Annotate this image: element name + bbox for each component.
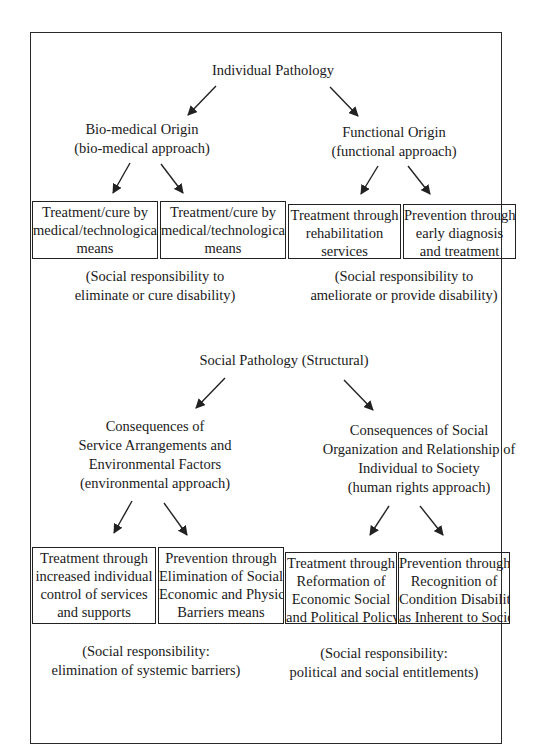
box-line: early diagnosis	[404, 224, 515, 242]
node-sublabel: (functional approach)	[331, 142, 456, 161]
note-line: (Social responsibility:	[52, 642, 241, 661]
arrow-icon	[330, 87, 358, 116]
arrow-icon	[370, 506, 389, 535]
arrow-icon	[420, 506, 443, 535]
box-line: Economic and Physical	[159, 585, 283, 603]
arrow-icon	[164, 503, 187, 535]
node-label: Environmental Factors	[78, 455, 231, 474]
box-line: Prevention through	[404, 206, 515, 224]
box-line: Reformation of	[286, 572, 396, 590]
note-line: (Social responsibility:	[290, 644, 479, 663]
box-prevention-recognition: Prevention through Recognition of Condit…	[398, 552, 510, 624]
box-line: control of services	[33, 585, 155, 603]
arrow-icon	[408, 166, 430, 194]
box-line: Condition Disability	[399, 590, 509, 608]
box-line: Prevention through	[159, 549, 283, 567]
box-line: Treatment through	[289, 206, 400, 224]
node-functional-origin: Functional Origin (functional approach)	[331, 123, 456, 161]
arrow-icon	[196, 378, 225, 408]
box-line: Elimination of Social	[159, 567, 283, 585]
arrow-icon	[161, 164, 183, 193]
box-line: medical/technological	[161, 221, 285, 239]
box-treatment-cure-2: Treatment/cure by medical/technological …	[160, 201, 286, 259]
box-treatment-individual-control: Treatment through increased individual c…	[32, 547, 156, 624]
arrow-icon	[361, 166, 378, 194]
node-service-arrangements: Consequences of Service Arrangements and…	[78, 417, 231, 493]
note-line: eliminate or cure disability)	[75, 286, 236, 305]
box-line: rehabilitation	[289, 224, 400, 242]
box-treatment-rehabilitation: Treatment through rehabilitation service…	[288, 204, 401, 259]
node-sublabel: (bio-medical approach)	[74, 139, 210, 158]
box-line: Treatment/cure by	[33, 203, 157, 221]
box-line: Treatment through	[33, 549, 155, 567]
box-line: and supports	[33, 603, 155, 621]
box-prevention-early-diagnosis: Prevention through early diagnosis and t…	[403, 204, 516, 259]
box-line: Recognition of	[399, 572, 509, 590]
node-label: Bio-medical Origin	[74, 120, 210, 139]
box-line: means	[161, 239, 285, 257]
node-label: Functional Origin	[331, 123, 456, 142]
box-line: Barriers means	[159, 603, 283, 621]
node-social-organization: Consequences of Social Organization and …	[323, 421, 516, 497]
box-line: services	[289, 242, 400, 259]
arrow-icon	[113, 163, 130, 193]
node-social-pathology: Social Pathology (Structural)	[199, 351, 368, 370]
note-entitlements: (Social responsibility: political and so…	[290, 644, 479, 682]
note-line: (Social responsibility to	[310, 267, 497, 286]
box-line: and treatment	[404, 242, 515, 259]
box-treatment-cure-1: Treatment/cure by medical/technological …	[32, 201, 158, 259]
arrow-icon	[114, 501, 132, 533]
node-bio-medical-origin: Bio-medical Origin (bio-medical approach…	[74, 120, 210, 158]
note-eliminate-cure: (Social responsibility to eliminate or c…	[75, 267, 236, 305]
box-line: as Inherent to Society	[399, 608, 509, 624]
box-line: increased individual	[33, 567, 155, 585]
note-line: (Social responsibility to	[75, 267, 236, 286]
note-line: ameliorate or provide disability)	[310, 286, 497, 305]
node-label: Service Arrangements and	[78, 436, 231, 455]
node-sublabel: (human rights approach)	[323, 478, 516, 497]
box-line: medical/technological	[33, 221, 157, 239]
box-line: Economic Social	[286, 590, 396, 608]
box-line: and Political Policy	[286, 608, 396, 624]
node-label: Individual to Society	[323, 459, 516, 478]
note-ameliorate-provide: (Social responsibility to ameliorate or …	[310, 267, 497, 305]
arrow-icon	[344, 380, 373, 410]
arrow-icon	[188, 86, 216, 115]
node-label: Individual Pathology	[212, 61, 334, 80]
box-treatment-reformation: Treatment through Reformation of Economi…	[285, 552, 397, 624]
box-line: means	[33, 239, 157, 257]
note-line: political and social entitlements)	[290, 663, 479, 682]
node-label: Consequences of	[78, 417, 231, 436]
box-prevention-barriers: Prevention through Elimination of Social…	[158, 547, 284, 624]
node-sublabel: (environmental approach)	[78, 474, 231, 493]
node-label: Consequences of Social	[323, 421, 516, 440]
note-line: elimination of systemic barriers)	[52, 661, 241, 680]
node-label: Organization and Relationship of	[323, 440, 516, 459]
box-line: Treatment through	[286, 554, 396, 572]
box-line: Prevention through	[399, 554, 509, 572]
node-individual-pathology: Individual Pathology	[212, 61, 334, 80]
note-systemic-barriers: (Social responsibility: elimination of s…	[52, 642, 241, 680]
node-label: Social Pathology (Structural)	[199, 351, 368, 370]
box-line: Treatment/cure by	[161, 203, 285, 221]
